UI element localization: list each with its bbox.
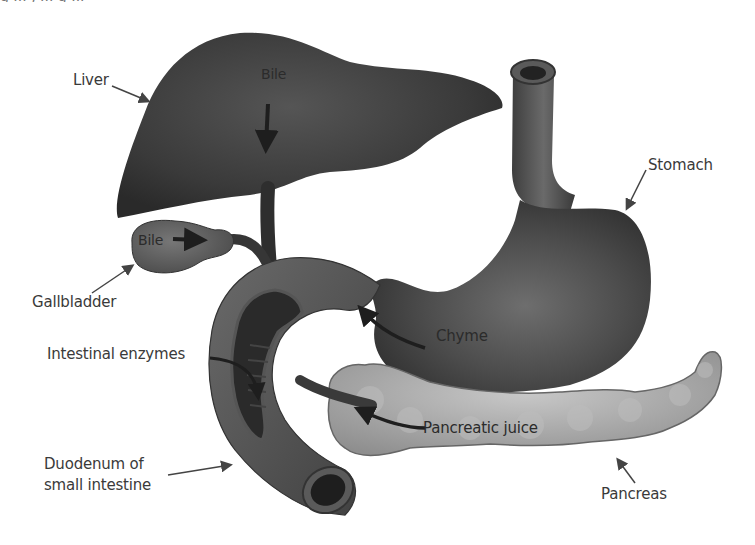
bile-flow-arrow-gallbladder [173, 239, 200, 240]
label-pancreas: Pancreas [601, 485, 667, 503]
bile-flow-arrow-liver [266, 104, 268, 146]
esophagus-shape [511, 60, 575, 212]
digestive-diagram: g ... , ... g ... [0, 0, 755, 545]
label-stomach: Stomach [648, 156, 713, 174]
pancreas-leader-arrow [618, 460, 635, 483]
stomach-leader-arrow [627, 170, 646, 208]
cut-off-caption: g ... , ... g ... [0, 0, 755, 2]
label-bile-gallbladder: Bile [138, 231, 163, 249]
label-duodenum-line2: small intestine [44, 476, 151, 494]
label-bile-liver: Bile [261, 65, 286, 83]
liver-leader-arrow [112, 86, 148, 101]
label-intestinal-enzymes: Intestinal enzymes [47, 345, 185, 363]
gallbladder-leader-arrow [92, 266, 132, 293]
liver-shape [117, 33, 503, 218]
duodenum-leader-arrow [168, 465, 230, 475]
label-liver: Liver [73, 71, 109, 89]
label-chyme: Chyme [436, 327, 488, 345]
label-gallbladder: Gallbladder [32, 293, 116, 311]
label-pancreatic-juice: Pancreatic juice [423, 419, 538, 437]
stomach-shape [371, 200, 650, 393]
label-duodenum-line1: Duodenum of [44, 455, 144, 473]
